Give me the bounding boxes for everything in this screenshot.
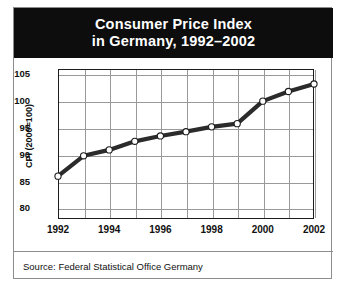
x-axis-tick-label: 1998 bbox=[200, 224, 222, 235]
y-axis-title-wrap: CPI (2000=100) bbox=[16, 69, 30, 219]
chart-title-band: Consumer Price Index in Germany, 1992–20… bbox=[14, 8, 333, 58]
y-axis-tick-label: 85 bbox=[0, 176, 30, 187]
data-point-marker bbox=[260, 98, 266, 104]
chart-plot-region: CPI (2000=100) 80859095100105 1992199419… bbox=[14, 58, 333, 251]
y-axis-tick-label: 105 bbox=[0, 68, 30, 79]
source-text: Source: Federal Statistical Office Germa… bbox=[14, 261, 203, 272]
x-gridline bbox=[315, 70, 316, 218]
data-point-marker bbox=[55, 173, 61, 179]
y-axis-tick-label: 90 bbox=[0, 149, 30, 160]
data-point-marker bbox=[157, 133, 163, 139]
data-point-marker bbox=[311, 81, 317, 87]
y-axis-tick-label: 100 bbox=[0, 95, 30, 106]
x-axis-tick-label: 1992 bbox=[47, 224, 69, 235]
x-axis-tick-label: 1996 bbox=[149, 224, 171, 235]
data-point-marker bbox=[209, 124, 215, 130]
x-axis-tick-label: 1994 bbox=[98, 224, 120, 235]
data-point-marker bbox=[81, 153, 87, 159]
data-point-marker bbox=[234, 121, 240, 127]
page-title: Consumer Price Index in Germany, 1992–20… bbox=[92, 16, 256, 50]
x-axis-tick-label: 2000 bbox=[252, 224, 274, 235]
y-axis-tick-label: 95 bbox=[0, 122, 30, 133]
x-axis-tick-label: 2002 bbox=[303, 224, 325, 235]
data-point-marker bbox=[285, 88, 291, 94]
cpi-line-series bbox=[58, 69, 314, 219]
y-axis-tick-label: 80 bbox=[0, 202, 30, 213]
data-point-marker bbox=[132, 138, 138, 144]
source-footer: Source: Federal Statistical Office Germa… bbox=[14, 251, 333, 280]
title-line-2: in Germany, 1992–2002 bbox=[92, 33, 256, 50]
title-line-1: Consumer Price Index bbox=[92, 16, 256, 33]
data-point-marker bbox=[183, 129, 189, 135]
chart-card: Consumer Price Index in Germany, 1992–20… bbox=[13, 7, 332, 279]
data-point-marker bbox=[106, 147, 112, 153]
